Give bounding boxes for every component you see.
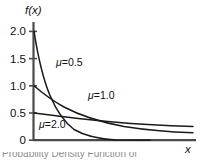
clipped-caption: Probability Density Function of — [0, 152, 202, 161]
caption-text: Probability Density Function of — [2, 152, 137, 159]
y-tick-label-2-0: 2.0 — [0, 26, 26, 38]
curve-annotation-mu-2-0: μ=2.0 — [39, 119, 66, 130]
y-tick-label-1-0: 1.0 — [0, 81, 26, 93]
y-tick-label-1-5: 1.5 — [0, 54, 26, 66]
y-tick-label-0-5: 0.5 — [0, 108, 26, 120]
y-axis-title: f(x) — [25, 5, 42, 17]
plot-canvas — [0, 0, 202, 161]
figure-container: 0 0.5 1.0 1.5 2.0 f(x) x μ=0.5 μ=1.0 μ=2… — [0, 0, 202, 161]
curve-annotation-mu-1-0: μ=1.0 — [88, 90, 115, 101]
mu-value: =2.0 — [45, 118, 66, 130]
y-tick-label-0: 0 — [0, 135, 26, 147]
curve-annotation-mu-0-5: μ=0.5 — [56, 57, 83, 68]
mu-value: =0.5 — [62, 56, 83, 68]
mu-value: =1.0 — [94, 89, 115, 101]
